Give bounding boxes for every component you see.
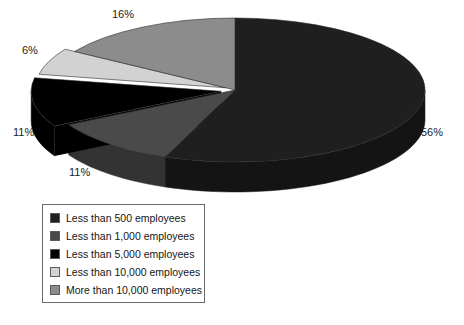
legend-swatch-icon: [50, 267, 60, 277]
slice-label-less-than-10000: 6%: [22, 44, 38, 56]
legend-item-label: Less than 1,000 employees: [66, 230, 194, 242]
legend-item-label: Less than 500 employees: [66, 212, 186, 224]
slice-label-more-than-10000: 16%: [112, 8, 134, 20]
legend: Less than 500 employeesLess than 1,000 e…: [42, 204, 205, 303]
legend-swatch-icon: [50, 231, 60, 241]
slice-label-less-than-1000: 11%: [69, 166, 90, 178]
legend-item[interactable]: More than 10,000 employees: [43, 281, 204, 299]
legend-item-label: Less than 10,000 employees: [66, 266, 200, 278]
legend-swatch-icon: [50, 285, 60, 295]
legend-item[interactable]: Less than 5,000 employees: [43, 245, 204, 263]
legend-item[interactable]: Less than 1,000 employees: [43, 227, 204, 245]
legend-item[interactable]: Less than 10,000 employees: [43, 263, 204, 281]
legend-list: Less than 500 employeesLess than 1,000 e…: [43, 205, 204, 299]
slice-label-less-than-500: 56%: [421, 126, 443, 138]
slice-label-less-than-5000: 11%: [13, 126, 34, 138]
legend-swatch-icon: [50, 249, 60, 259]
pie-chart-page: 16% 6% 11% 11% 56% Less than 500 employe…: [0, 0, 464, 325]
legend-swatch-icon: [50, 213, 60, 223]
legend-item[interactable]: Less than 500 employees: [43, 209, 204, 227]
legend-item-label: Less than 5,000 employees: [66, 248, 194, 260]
legend-item-label: More than 10,000 employees: [66, 284, 202, 296]
pie-chart-graphic: 16% 6% 11% 11% 56%: [0, 0, 464, 195]
